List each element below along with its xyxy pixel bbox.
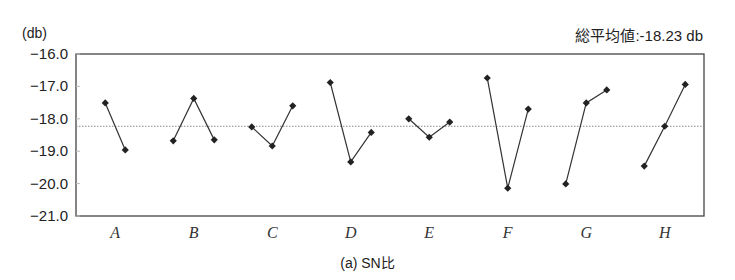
data-point-marker xyxy=(211,136,218,143)
data-point-marker xyxy=(682,81,689,88)
y-tick-label: −20.0 xyxy=(30,175,68,192)
x-category-label: A xyxy=(109,224,120,241)
data-point-marker xyxy=(661,123,668,130)
x-category-label: B xyxy=(189,224,199,241)
data-point-marker xyxy=(603,86,610,93)
data-point-marker xyxy=(347,158,354,165)
factor-f-line xyxy=(487,78,528,188)
x-category-label: E xyxy=(423,224,434,241)
data-point-marker xyxy=(102,99,109,106)
data-point-marker xyxy=(170,137,177,144)
data-point-marker xyxy=(122,146,129,153)
y-axis-unit-label: (db) xyxy=(22,25,47,41)
x-category-label: G xyxy=(580,224,592,241)
y-tick-label: −19.0 xyxy=(30,142,68,159)
y-tick-label: −21.0 xyxy=(30,207,68,224)
data-point-marker xyxy=(641,163,648,170)
data-point-marker xyxy=(327,79,334,86)
data-point-marker xyxy=(289,102,296,109)
data-point-marker xyxy=(190,95,197,102)
data-point-marker xyxy=(504,185,511,192)
x-category-label: F xyxy=(502,224,513,241)
chart-caption: (a) SN比 xyxy=(0,252,735,272)
grand-mean-label: 総平均値:-18.23 db xyxy=(575,24,703,45)
data-point-marker xyxy=(583,99,590,106)
factor-d-line xyxy=(330,83,371,162)
x-category-label: H xyxy=(658,224,672,241)
y-tick-label: −17.0 xyxy=(30,77,68,94)
y-tick-label: −18.0 xyxy=(30,110,68,127)
data-point-marker xyxy=(525,105,532,112)
data-point-marker xyxy=(484,74,491,81)
factor-b-line xyxy=(173,98,214,140)
data-point-marker xyxy=(562,180,569,187)
x-category-label: C xyxy=(267,224,278,241)
plot-frame xyxy=(76,54,704,216)
data-point-marker xyxy=(368,129,375,136)
x-category-label: D xyxy=(344,224,357,241)
y-tick-label: −16.0 xyxy=(30,45,68,62)
